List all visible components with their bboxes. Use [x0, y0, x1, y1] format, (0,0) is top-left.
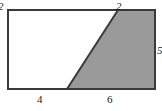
dimension-label-top-left: 2: [0, 1, 4, 12]
dimension-label-bottom-left: 4: [37, 94, 43, 105]
dimension-label-top-right: 2: [116, 1, 122, 12]
dimension-label-right-side: 5: [157, 45, 162, 56]
figure-canvas: [0, 0, 162, 111]
dimension-label-bottom-right: 6: [107, 94, 113, 105]
geometry-figure: 2 2 5 4 6: [0, 0, 162, 111]
